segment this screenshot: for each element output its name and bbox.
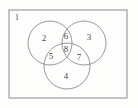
region-label-right-only: 3 xyxy=(82,33,96,42)
region-label-universe: 1 xyxy=(10,13,24,22)
venn-diagram-screenshot: 1 2 3 4 5 6 7 8 xyxy=(0,0,138,108)
region-label-left-right-bottom: 8 xyxy=(59,45,73,54)
region-label-bottom-only: 4 xyxy=(59,72,73,81)
region-label-right-bottom: 7 xyxy=(72,53,86,62)
universal-set-rectangle xyxy=(9,10,127,98)
region-label-left-only: 2 xyxy=(37,34,51,43)
region-label-left-bottom: 5 xyxy=(44,52,58,61)
region-label-left-right: 6 xyxy=(59,32,73,41)
